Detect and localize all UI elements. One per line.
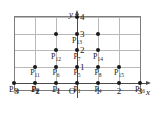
y-tick-label: 1: [80, 62, 85, 71]
x-axis-arrow: [146, 81, 151, 85]
y-axis-arrow: [75, 10, 79, 15]
point-label-P9: P9: [31, 86, 38, 94]
lattice-point-dot: [117, 81, 121, 85]
point-label-P13: P13: [72, 37, 82, 45]
lattice-point-dot: [96, 32, 100, 36]
point-label-P15: P15: [114, 69, 124, 77]
lattice-point-dot: [75, 15, 79, 19]
point-label-P11: P11: [30, 69, 40, 77]
point-label-P12: P12: [51, 53, 61, 61]
point-label-P14: P14: [93, 53, 103, 61]
point-label-P6: P6: [52, 69, 59, 77]
point-label-P5: P5: [73, 69, 80, 77]
grid-line-vertical: [119, 16, 120, 90]
y-tick-label: 4: [80, 13, 85, 22]
y-axis-label: y: [69, 10, 73, 19]
y-tick-label: 2: [80, 46, 85, 55]
plot-frame-left: [14, 16, 15, 90]
point-label-P4: P4: [94, 86, 101, 94]
coordinate-plane-figure: xyO−3−2−11231234P1P2P3P4P5P6P7P8P9P10P11…: [0, 0, 154, 124]
point-label-P7: P7: [73, 53, 80, 61]
point-label-P2: P2: [52, 86, 59, 94]
point-label-P8: P8: [94, 69, 101, 77]
point-label-P10: P10: [9, 86, 19, 94]
lattice-point-dot: [54, 32, 58, 36]
x-tick-label: 2: [117, 87, 122, 96]
point-label-P16: P16: [135, 86, 145, 94]
grid-line-vertical: [35, 16, 36, 90]
x-axis-label: x: [146, 88, 150, 97]
point-label-P1: P1: [73, 86, 80, 94]
plot-frame-right: [140, 16, 141, 90]
